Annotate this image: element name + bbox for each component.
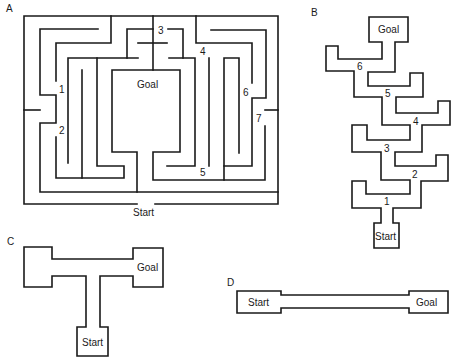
start-label: Start [375, 231, 396, 242]
maze-c-labels: Goal Start [82, 262, 158, 348]
choice-point-1: 1 [59, 84, 65, 95]
goal-label: Goal [137, 262, 158, 273]
choice-point-3: 3 [384, 143, 390, 154]
maze-d: D Start Goal [227, 277, 448, 313]
choice-point-5: 5 [385, 88, 391, 99]
start-label: Start [248, 297, 269, 308]
maze-a-labels: Goal Start 1 2 3 4 5 6 7 [59, 25, 262, 218]
maze-b: B Goal Start 1 2 3 4 5 6 [311, 7, 450, 248]
choice-point-6: 6 [357, 61, 363, 72]
choice-point-5: 5 [200, 167, 206, 178]
maze-c: C Goal Start [7, 236, 163, 356]
goal-label: Goal [137, 79, 158, 90]
choice-point-1: 1 [384, 196, 390, 207]
panel-label-a: A [6, 3, 13, 14]
panel-label-b: B [311, 7, 318, 18]
maze-a: A [6, 3, 278, 218]
maze-a-walls [24, 16, 278, 204]
maze-b-walls [326, 17, 450, 248]
choice-point-4: 4 [413, 116, 419, 127]
maze-d-labels: Start Goal [248, 297, 437, 308]
choice-point-4: 4 [200, 46, 206, 57]
choice-point-2: 2 [59, 125, 65, 136]
panel-label-c: C [7, 236, 14, 247]
choice-point-3: 3 [158, 25, 164, 36]
maze-figure: A [0, 0, 457, 362]
choice-point-7: 7 [256, 113, 262, 124]
goal-label: Goal [378, 24, 399, 35]
choice-point-6: 6 [243, 87, 249, 98]
choice-point-2: 2 [412, 169, 418, 180]
panel-label-d: D [227, 277, 234, 288]
goal-label: Goal [416, 297, 437, 308]
start-label: Start [82, 337, 103, 348]
start-label: Start [133, 207, 154, 218]
